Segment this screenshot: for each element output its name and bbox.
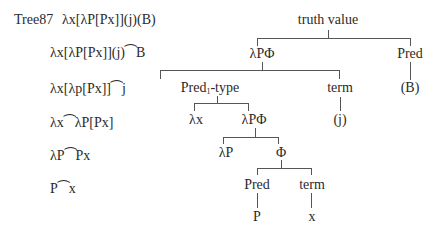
node-lambda-p-phi-second: λPΦ bbox=[242, 112, 267, 128]
node-x: x bbox=[309, 209, 316, 225]
node-b: (B) bbox=[401, 80, 420, 96]
node-p: P bbox=[253, 209, 261, 225]
node-pred-lower: Pred bbox=[244, 177, 270, 193]
node-phi: Φ bbox=[276, 145, 286, 161]
node-term-lower: term bbox=[299, 177, 325, 193]
node-truth-value: truth value bbox=[298, 12, 358, 28]
node-lambda-x: λx bbox=[189, 112, 203, 128]
node-j: (j) bbox=[333, 112, 346, 128]
tree-branches bbox=[0, 0, 436, 232]
node-term-mid: term bbox=[327, 80, 353, 96]
node-lambda-p-phi-top: λPΦ bbox=[250, 46, 275, 62]
node-pred-right: Pred bbox=[397, 46, 423, 62]
node-lambda-p: λP bbox=[219, 145, 234, 161]
node-pred1-type: Pred1-type bbox=[181, 80, 239, 100]
